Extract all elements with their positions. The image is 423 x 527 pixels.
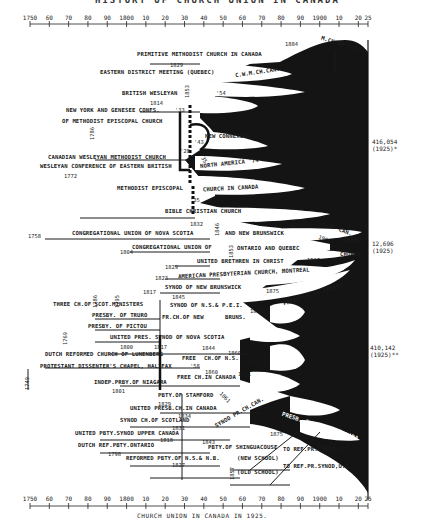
year-1846: 1846 [215,223,220,236]
year-1772: 1772 [64,174,77,179]
axis-tick-label: 60 [46,495,53,502]
year-1818: 1818 [160,438,173,443]
label-three-ch-scot: THREE CH.OF SCOT.MINISTERS [53,302,143,308]
year-1769: 1769 [63,332,68,345]
total-methodist-year: (1925)* [372,146,397,153]
year-1786: 1786 [90,127,95,140]
year-1758: 1758 [28,234,41,239]
axis-tick-label: 30 [181,495,188,502]
label-pbty-stamford: PBTY.OF STAMFORD [158,393,213,399]
label-methodist-episcopal: METHODIST EPISCOPAL [117,186,183,192]
label-wesleyan-conference: WESLEYAN CONFERENCE OF EASTERN BRITISH [40,164,172,170]
year-1845: 1845 [172,295,185,300]
axis-tick-label: 60 [239,495,246,502]
year-1827: 1827 [172,463,185,468]
axis-tick-label: 20 [355,14,362,21]
year-1829: 1829 [170,63,183,68]
axis-tick-label: 20 [162,495,169,502]
label-methodist-episcopal-church: OF METHODIST EPISCOPAL CHURCH [62,119,163,125]
axis-tick-label: 60 [46,14,53,21]
label-united-brethren: UNITED BRETHREN IN CHRIST [197,259,284,265]
year-1800: 1800 [120,345,133,350]
total-congregational: 12,696 (1925) [372,241,394,255]
year-1866b: 1866 [246,360,259,365]
axis-tick-label: 25 [364,495,371,502]
year-1844: 1844 [202,346,215,351]
axis-tick-label: 10 [335,14,342,21]
label-primitive-methodist: PRIMITIVE METHODIST CHURCH IN CANADA [137,52,262,58]
year-1798: 1798 [108,452,121,457]
year-1875b: 1875 [270,432,283,437]
label-to-ref-pr-synod-2: TO REF.PR.SYNOD,U.S. [283,464,352,470]
label-indep-prby-niagara: INDEP.PRBY.OF NIAGARA [94,380,167,386]
total-presbyterian-year: (1925)** [370,352,399,359]
axis-tick-label: 90 [297,14,304,21]
axis-tick-label: 1900 [312,495,326,502]
year-33: '33 [175,108,185,113]
year-1894: 1894 [290,223,303,228]
label-new-connexion: NEW CONNEXION [205,134,250,140]
axis-tick-label: 20 [162,14,169,21]
axis-tick-label: 10 [335,495,342,502]
axis-tick-label: 40 [200,14,207,21]
axis-tick-label: 50 [220,495,227,502]
label-free-ch-canada: FREE CH.IN CANADA [177,375,236,381]
axis-tick-label: 70 [65,495,72,502]
label-presby-pictou: PRESBY. OF PICTOU [88,324,147,330]
label-church: CHURCH [340,252,361,258]
label-free: FREE [182,356,196,362]
axis-tick-label: 1900 [312,14,326,21]
label-united-pbty-synod-uc: UNITED PBTY.SYNOD UPPER CANADA [75,431,179,437]
label-to-ref-pr-synod-1: TO REF.PR.SYNOD,U.S. [283,447,352,453]
year-1861: 1861 [238,372,251,377]
label-presby-truro: PRESBY. OF TRURO [92,313,147,319]
label-british-wesleyan: BRITISH WESLEYAN [122,91,177,97]
year-1866a: 1866 [250,309,263,314]
year-1749: 1749 [25,377,30,390]
axis-tick-label: 1800 [119,495,133,502]
label-pbty-shinguacouse: PBTY.OF SHINGUACOUSE [208,445,277,451]
year-1853: 1853 [185,85,190,98]
year-1832: 1832 [190,222,203,227]
label-bible-christian: BIBLE CHRISTIAN CHURCH [165,209,241,215]
year-43: '43 [194,140,204,145]
year-1817b: 1817 [154,345,167,350]
year-58: '58 [190,364,200,369]
total-congregational-year: (1925) [372,248,394,255]
axis-tick-label: 10 [142,495,149,502]
label-synod-ns-pei: SYNOD OF N.S.& P.E.I. [170,303,243,309]
axis-tick-label: 70 [258,14,265,21]
year-1829b: 1829 [165,265,178,270]
axis-tick-label: 1800 [119,14,133,21]
year-28: '28 [180,149,190,154]
axis-tick-label: 90 [297,495,304,502]
axis-tick-label: 50 [220,14,227,21]
axis-tick-label: 1750 [23,495,37,502]
axis-tick-label: 90 [104,14,111,21]
axis-tick-label: 60 [239,14,246,21]
axis-tick-label: 1750 [23,14,37,21]
axis-tick-label: 80 [277,495,284,502]
top-axis [30,21,368,27]
label-new-school: (NEW SCHOOL) [237,456,279,462]
label-dutch-ref-pbty-ontario: DUTCH REF.PBTY.ONTARIO [78,443,154,449]
year-1801: 1801 [112,389,125,394]
total-presbyterian: 410,142 (1925)** [370,345,399,359]
axis-tick-label: 25 [364,14,371,21]
caption: CHURCH UNION IN CANADA IN 1925. [137,512,268,519]
church-union-diagram: HISTORY OF CHURCH UNION IN CANADA [0,0,423,527]
axis-tick-label: 20 [355,495,362,502]
label-cong-union-of: CONGREGATIONAL UNION OF [132,245,212,251]
label-bruns: BRUNS. [225,315,246,321]
label-old-school: (OLD SCHOOL) [237,470,279,476]
axis-tick-label: 40 [200,495,207,502]
axis-tick-label: 10 [142,14,149,21]
label-and-new-brunswick: AND NEW BRUNSWICK [225,231,284,237]
label-fr-ch-new: FR.CH.OF NEW [162,315,204,321]
year-1875a: 1875 [266,289,279,294]
year-35b: '35 [190,198,200,203]
total-methodist: 416,054 (1925)* [372,139,397,153]
label-synod-ch-scotland: SYNOD CH.OF SCOTLAND [120,418,189,424]
year-1857: 1857 [230,467,235,480]
axis-tick-label: 80 [277,14,284,21]
